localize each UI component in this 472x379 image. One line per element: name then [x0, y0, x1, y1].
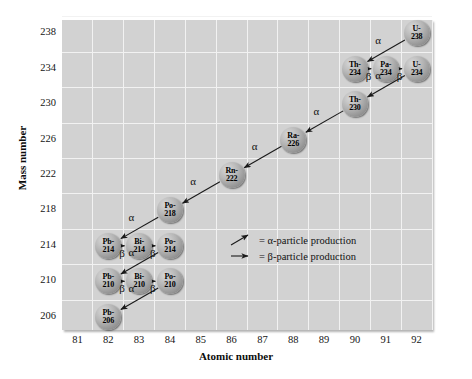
legend-label-beta: = β-particle production: [259, 251, 356, 262]
alpha-label: α: [190, 175, 196, 187]
alpha-label: α: [129, 282, 135, 294]
nuclide-mass-number: 234: [349, 69, 360, 77]
nuclide-node[interactable]: Ra-226: [280, 127, 306, 153]
nuclide-node[interactable]: Pb-214: [95, 233, 121, 259]
nuclide-mass-number: 230: [349, 104, 360, 112]
alpha-label: α: [129, 211, 135, 223]
nuclide-mass-number: 234: [411, 69, 422, 77]
nuclide-mass-number: 222: [226, 175, 237, 183]
alpha-decay-arrow: [306, 111, 343, 132]
nuclide-node[interactable]: Th-234: [342, 56, 368, 82]
alpha-label: α: [375, 34, 381, 46]
nuclide-mass-number: 206: [103, 317, 114, 325]
nuclide-node[interactable]: Po-214: [157, 233, 183, 259]
nuclide-mass-number: 210: [103, 281, 114, 289]
legend-item-alpha: = α-particle production: [228, 232, 356, 248]
beta-label: β: [366, 70, 372, 82]
nuclide-mass-number: 210: [133, 281, 144, 289]
nuclide-mass-number: 214: [164, 246, 175, 254]
nuclide-mass-number: 214: [133, 246, 144, 254]
beta-label: β: [397, 70, 403, 82]
decay-series-chart: U-238Th-234Pa-234U-234Th-230Ra-226Rn-222…: [0, 0, 472, 379]
nuclide-mass-number: 226: [288, 140, 299, 148]
nuclide-mass-number: 210: [164, 281, 175, 289]
decay-arrow-layer: [0, 0, 472, 379]
legend-item-beta: = β-particle production: [228, 248, 356, 264]
nuclide-node[interactable]: Pb-206: [95, 304, 121, 330]
beta-label: β: [150, 247, 156, 259]
alpha-label: α: [314, 105, 320, 117]
legend: = α-particle production = β-particle pro…: [228, 232, 356, 264]
beta-label: β: [119, 247, 125, 259]
nuclide-mass-number: 214: [103, 246, 114, 254]
horizontal-arrow-icon: [228, 249, 254, 263]
nuclide-node[interactable]: U-234: [404, 56, 430, 82]
nuclide-node[interactable]: Po-210: [157, 268, 183, 294]
nuclide-mass-number: 218: [164, 210, 175, 218]
beta-label: β: [150, 282, 156, 294]
beta-label: β: [119, 282, 125, 294]
nuclide-node[interactable]: Rn-222: [219, 162, 245, 188]
nuclide-mass-number: 238: [411, 33, 422, 41]
alpha-decay-arrow: [244, 146, 281, 167]
diagonal-arrow-icon: [228, 233, 254, 247]
alpha-label: α: [252, 140, 258, 152]
nuclide-node[interactable]: Th-230: [342, 91, 368, 117]
nuclide-node[interactable]: U-238: [404, 20, 430, 46]
legend-label-alpha: = α-particle production: [259, 235, 356, 246]
alpha-label: α: [129, 246, 135, 258]
nuclide-mass-number: 234: [380, 69, 391, 77]
alpha-label: α: [375, 69, 381, 81]
alpha-decay-arrow: [182, 182, 219, 203]
